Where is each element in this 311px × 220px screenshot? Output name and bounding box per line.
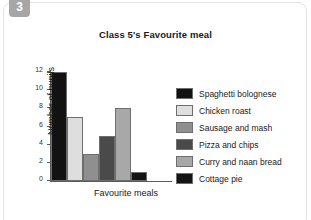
legend-swatch xyxy=(176,122,193,133)
bar xyxy=(131,172,147,181)
y-tick-label: 0 xyxy=(39,175,43,182)
legend-item: Pizza and chips xyxy=(176,136,282,153)
y-tick-label: 10 xyxy=(35,84,43,91)
bar xyxy=(115,108,131,181)
y-tick-label: 6 xyxy=(39,121,43,128)
legend-swatch xyxy=(176,156,193,167)
chart-title: Class 5's Favourite meal xyxy=(0,29,311,40)
bar xyxy=(83,154,99,181)
legend-item: Chicken roast xyxy=(176,102,282,119)
legend-label: Sausage and mash xyxy=(199,123,272,133)
chart-legend: Spaghetti bologneseChicken roastSausage … xyxy=(176,85,282,187)
y-tick-label: 4 xyxy=(39,139,43,146)
bar-chart-plot-area: 024681012 Number of pupils Favourite mea… xyxy=(50,72,165,182)
legend-item: Curry and naan bread xyxy=(176,153,282,170)
bar-group xyxy=(51,72,147,181)
bar xyxy=(99,136,115,181)
x-axis-line xyxy=(50,181,172,182)
question-number-badge: 3 xyxy=(9,0,30,17)
legend-item: Sausage and mash xyxy=(176,119,282,136)
y-tick-label: 12 xyxy=(35,66,43,73)
legend-label: Chicken roast xyxy=(199,106,251,116)
legend-swatch xyxy=(176,173,193,184)
bar xyxy=(67,117,83,181)
legend-label: Curry and naan bread xyxy=(199,157,282,167)
legend-swatch xyxy=(176,105,193,116)
legend-item: Cottage pie xyxy=(176,170,282,187)
legend-label: Spaghetti bolognese xyxy=(199,89,277,99)
legend-label: Pizza and chips xyxy=(199,140,259,150)
y-axis-label: Number of pupils xyxy=(46,56,56,146)
legend-item: Spaghetti bolognese xyxy=(176,85,282,102)
legend-swatch xyxy=(176,139,193,150)
legend-label: Cottage pie xyxy=(199,174,242,184)
legend-swatch xyxy=(176,88,193,99)
x-axis-label: Favourite meals xyxy=(66,188,186,198)
y-tick-label: 2 xyxy=(39,157,43,164)
y-tick-label: 8 xyxy=(39,102,43,109)
worksheet-page: 3 Class 5's Favourite meal 024681012 Num… xyxy=(0,0,311,220)
